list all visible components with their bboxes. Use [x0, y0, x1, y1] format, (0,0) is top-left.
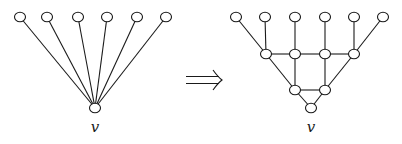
edge	[236, 17, 266, 54]
leaf-node	[73, 12, 84, 22]
leaf-node	[132, 12, 143, 22]
implies-arrow-icon	[186, 70, 222, 90]
leaf-node	[15, 12, 26, 22]
right-graph-nodes	[231, 12, 389, 113]
node-t6	[378, 12, 389, 22]
node-m3	[320, 49, 331, 59]
edge	[325, 54, 354, 90]
center-node-v	[306, 103, 317, 113]
leaf-node	[102, 12, 113, 22]
node-l2	[320, 85, 331, 95]
node-t3	[290, 12, 301, 22]
right-center-label: v	[307, 118, 316, 136]
right-graph-edges	[236, 17, 383, 108]
node-l1	[290, 85, 301, 95]
edge	[20, 17, 95, 108]
center-node-v	[90, 103, 101, 113]
node-t1	[231, 12, 242, 22]
left-star-edges	[20, 17, 166, 108]
graph-transformation-diagram: v v	[0, 0, 402, 144]
node-m1	[261, 49, 272, 59]
edge	[47, 17, 95, 108]
arrow-head	[213, 70, 222, 90]
edge	[78, 17, 95, 108]
left-center-label: v	[91, 118, 100, 136]
node-t4	[320, 12, 331, 22]
node-m2	[290, 49, 301, 59]
edge	[266, 54, 295, 90]
edge	[265, 17, 266, 54]
node-m4	[349, 49, 360, 59]
leaf-node	[161, 12, 172, 22]
leaf-node	[42, 12, 53, 22]
node-t2	[260, 12, 271, 22]
edge	[354, 17, 383, 54]
node-t5	[349, 12, 360, 22]
